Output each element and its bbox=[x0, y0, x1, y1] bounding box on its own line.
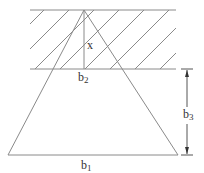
hatched-band bbox=[0, 10, 204, 69]
triangle-right-side bbox=[84, 10, 178, 155]
label-b2: b2 bbox=[78, 71, 89, 86]
arrow-up-icon bbox=[185, 70, 189, 77]
label-x: x bbox=[87, 39, 93, 51]
arrow-down-icon bbox=[185, 147, 189, 154]
label-b3-sub: 3 bbox=[189, 112, 194, 122]
diagram-canvas bbox=[0, 0, 204, 173]
label-b1-sub: 1 bbox=[87, 163, 92, 173]
triangle bbox=[8, 10, 178, 155]
label-x-text: x bbox=[87, 38, 93, 52]
label-b3: b3 bbox=[183, 107, 194, 124]
label-b2-sub: 2 bbox=[84, 75, 89, 85]
hatch-lines bbox=[0, 10, 204, 69]
triangle-left-side bbox=[8, 10, 84, 155]
label-b1: b1 bbox=[81, 159, 92, 173]
